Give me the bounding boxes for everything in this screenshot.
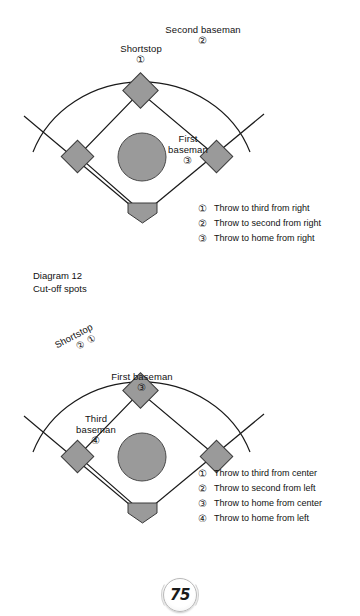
page-number: 75: [170, 586, 190, 604]
label-first-baseman: First baseman ③: [97, 371, 187, 393]
pitchers-mound: [118, 133, 166, 181]
home-plate: [128, 503, 157, 523]
legend-text: Throw to third from right: [214, 203, 310, 213]
legend-text: Throw to home from right: [214, 233, 315, 243]
legend-text: Throw to home from center: [214, 498, 322, 508]
label-third-baseman-line1: Third: [85, 413, 107, 424]
label-first-baseman-line2: baseman: [160, 144, 216, 155]
legend-row: ② Throw to second from right: [198, 218, 321, 233]
legend-row: ① Throw to third from center: [198, 468, 322, 483]
legend-number: ①: [198, 203, 214, 214]
legend-number: ②: [198, 483, 214, 494]
legend-row: ② Throw to second from left: [198, 483, 322, 498]
legend-text: Throw to second from left: [214, 483, 316, 493]
figure-caption: Diagram 12 Cut-off spots: [33, 270, 87, 295]
legend-row: ③ Throw to home from center: [198, 498, 322, 513]
caption-subtitle: Cut-off spots: [33, 283, 87, 296]
page: Second baseman ② Shortstop ① First basem…: [0, 0, 360, 616]
label-shortstop-number: ①: [106, 54, 176, 65]
legend-text: Throw to home from left: [214, 513, 309, 523]
page-number-badge: 75: [0, 578, 360, 612]
legend-top: ① Throw to third from right ② Throw to s…: [198, 203, 321, 248]
legend-row: ① Throw to third from right: [198, 203, 321, 218]
legend-number: ④: [198, 513, 214, 524]
label-first-baseman-number: ③: [160, 155, 216, 166]
label-third-baseman: Third baseman ④: [66, 413, 126, 446]
legend-text: Throw to second from right: [214, 218, 321, 228]
label-first-baseman-text: First baseman: [111, 371, 173, 382]
home-plate: [128, 203, 157, 223]
legend-row: ④ Throw to home from left: [198, 513, 322, 528]
label-first-baseman-number: ③: [97, 382, 187, 393]
label-third-baseman-line2: baseman: [66, 424, 126, 435]
label-third-baseman-number: ④: [66, 435, 126, 446]
label-first-baseman: First baseman ③: [160, 133, 216, 166]
legend-number: ③: [198, 233, 214, 244]
diagram-top-cutoff-right: Second baseman ② Shortstop ① First basem…: [0, 0, 360, 262]
legend-row: ③ Throw to home from right: [198, 233, 321, 248]
label-second-baseman-text: Second baseman: [165, 24, 240, 35]
label-first-baseman-line1: First: [179, 133, 198, 144]
caption-title: Diagram 12: [33, 270, 87, 283]
baseball-icon: 75: [163, 578, 197, 612]
label-shortstop: Shortstop ①: [106, 43, 176, 65]
legend-bottom: ① Throw to third from center ② Throw to …: [198, 468, 322, 528]
label-shortstop-text: Shortstop: [120, 43, 162, 54]
legend-number: ①: [198, 468, 214, 479]
diagram-bottom-cutoff-left-center: Shortstop ②① First baseman ③ Third basem…: [0, 300, 360, 562]
legend-number: ③: [198, 498, 214, 509]
legend-number: ②: [198, 218, 214, 229]
legend-text: Throw to third from center: [214, 468, 317, 478]
